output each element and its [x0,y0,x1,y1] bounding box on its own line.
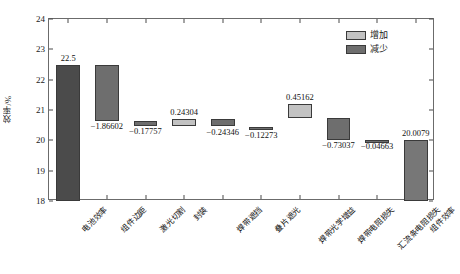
x-category-label-7: 焊带光学增益 [317,205,357,245]
bar-8 [327,118,351,140]
x-category-label-2: 组件边距 [119,205,148,234]
y-tick-mark [49,110,53,111]
x-tick-mark [338,195,339,199]
y-tick-mark [49,79,53,80]
x-tick-mark [338,19,339,23]
x-tick-mark [377,195,378,199]
y-tick-label: 23 [36,45,45,54]
x-tick-mark [299,19,300,23]
x-category-label-3: 激光切割 [158,205,187,234]
bar-1 [56,65,80,202]
y-tick-mark [49,201,53,202]
y-tick-mark [429,49,433,50]
value-label-7: 0.45162 [286,93,314,102]
x-category-label-8: 焊带电阻损失 [356,205,396,245]
bar-10 [404,140,428,201]
x-category-label-1: 电池效率 [81,205,110,234]
y-tick-mark [49,19,53,20]
value-label-1: 22.5 [61,54,76,63]
value-label-9: −0.04663 [361,142,393,151]
x-tick-mark [222,195,223,199]
bar-2 [95,65,119,122]
legend-item-decrease: 减少 [346,44,388,55]
x-tick-mark [299,195,300,199]
y-tick-mark [429,201,433,202]
legend: 增加 减少 [346,30,388,58]
legend-label-decrease: 减少 [370,44,388,55]
y-tick-label: 19 [36,166,45,175]
x-category-label-5: 焊带遮挡 [235,205,264,234]
y-tick-mark [49,140,53,141]
legend-label-increase: 增加 [370,30,388,41]
y-tick-mark [49,170,53,171]
x-tick-mark [68,19,69,23]
x-tick-mark [145,195,146,199]
y-tick-mark [429,19,433,20]
legend-item-increase: 增加 [346,30,388,41]
value-label-3: −0.17757 [129,127,161,136]
y-tick-mark [429,110,433,111]
value-label-5: −0.24346 [206,128,238,137]
x-tick-mark [415,19,416,23]
y-tick-mark [429,170,433,171]
x-tick-mark [377,19,378,23]
value-label-8: −0.73037 [322,141,354,150]
bar-4 [172,119,196,126]
x-tick-mark [106,19,107,23]
x-tick-mark [222,19,223,23]
bar-7 [288,104,312,118]
waterfall-chart: 效率/% 18192021222324 22.5−1.86602−0.17757… [0,0,460,274]
y-tick-mark [49,49,53,50]
y-tick-label: 21 [36,106,45,115]
x-tick-mark [145,19,146,23]
value-label-4: 0.24304 [170,108,198,117]
bar-5 [211,119,235,126]
y-tick-mark [429,79,433,80]
legend-swatch-increase-icon [346,31,366,40]
y-tick-label: 18 [36,197,45,206]
x-tick-mark [261,19,262,23]
x-tick-mark [106,195,107,199]
x-category-label-6: 叠片遮光 [274,205,303,234]
value-label-10: 20.0079 [402,129,430,138]
y-axis-label: 效率/% [4,96,18,123]
y-tick-mark [429,140,433,141]
legend-swatch-decrease-icon [346,45,366,54]
value-label-6: −0.12273 [245,131,277,140]
y-tick-label: 22 [36,75,45,84]
y-tick-label: 24 [36,15,45,24]
x-category-label-4: 封装 [192,205,210,223]
y-tick-label: 20 [36,136,45,145]
x-tick-mark [184,195,185,199]
x-tick-mark [261,195,262,199]
x-tick-mark [184,19,185,23]
value-label-2: −1.86602 [91,122,123,131]
